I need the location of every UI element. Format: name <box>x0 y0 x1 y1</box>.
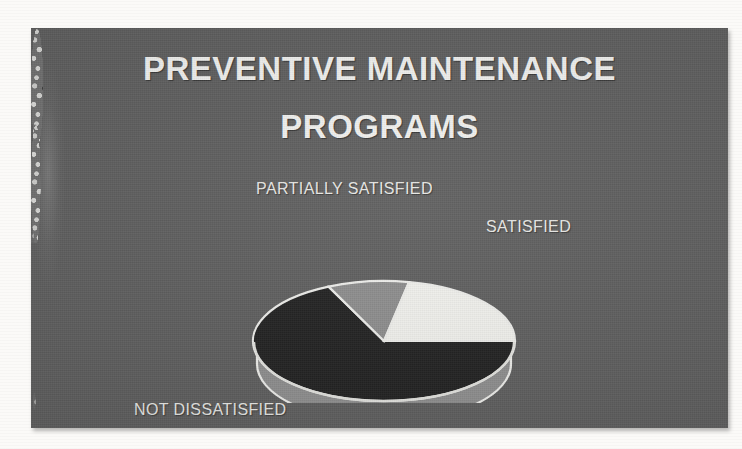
slide-title-block: PREVENTIVE MAINTENANCE PROGRAMS <box>31 52 728 143</box>
speckle-shape-bottom-dot <box>33 390 46 412</box>
speckle-shape-lower <box>31 224 47 243</box>
page-title-line-1: PREVENTIVE MAINTENANCE <box>31 52 728 85</box>
pie-label-not-dissatisfied: NOT DISSATISFIED <box>134 401 287 419</box>
presentation-slide: PREVENTIVE MAINTENANCE PROGRAMS PARTIALL… <box>31 28 728 428</box>
page-title-line-2: PROGRAMS <box>31 110 728 143</box>
pie-label-partially-satisfied: PARTIALLY SATISFIED <box>256 180 433 198</box>
scanned-page-background: PREVENTIVE MAINTENANCE PROGRAMS PARTIALL… <box>0 0 742 449</box>
pie-chart <box>249 218 519 403</box>
pie-label-satisfied: SATISFIED <box>486 218 571 236</box>
pie-chart-svg <box>249 218 519 403</box>
